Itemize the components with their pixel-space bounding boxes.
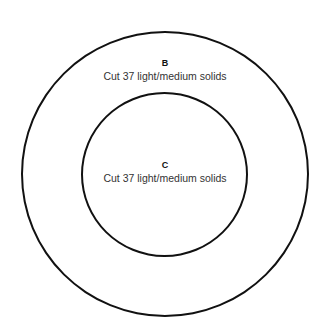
- region-c-description: Cut 37 light/medium solids: [65, 172, 265, 184]
- region-b-label: B Cut 37 light/medium solids: [65, 57, 265, 82]
- region-b-description: Cut 37 light/medium solids: [65, 70, 265, 82]
- concentric-circle-diagram: B Cut 37 light/medium solids C Cut 37 li…: [0, 0, 329, 335]
- region-c-letter: C: [65, 159, 265, 171]
- region-c-label: C Cut 37 light/medium solids: [65, 159, 265, 184]
- region-b-letter: B: [65, 57, 265, 69]
